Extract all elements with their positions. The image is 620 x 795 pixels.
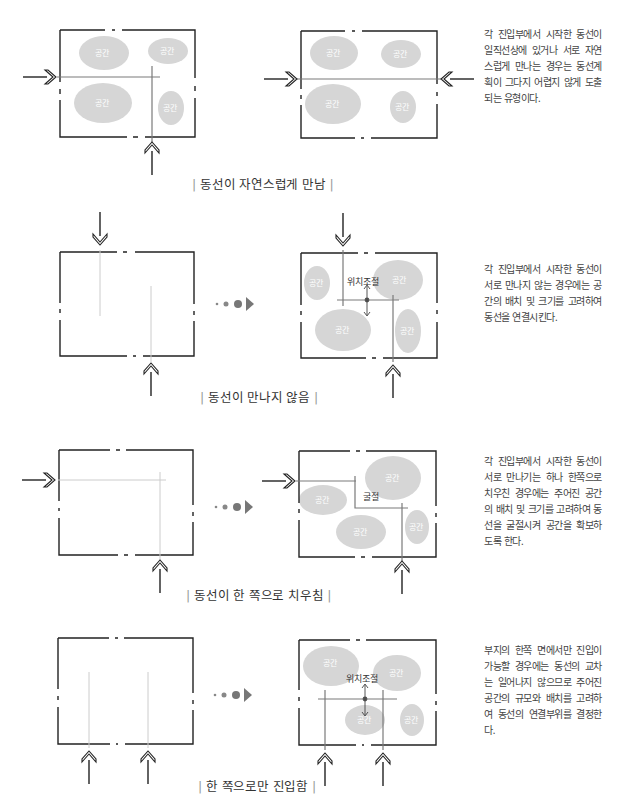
site-plan-after: 공간 공간 공간 공간 위치조절	[301, 213, 437, 398]
caption-divider: |	[192, 177, 196, 192]
entry-arrow-icon	[144, 363, 158, 396]
entry-arrow-icon	[93, 212, 107, 245]
description-natural-meet: 각 진입부에서 시작한 동선이 일직선상에 있거나 서로 자연스럽게 만나는 경…	[484, 27, 602, 107]
caption-natural-meet: |동선이 자연스럽게 만남|	[188, 174, 338, 193]
caption-text: 한 쪽으로만 진입함	[206, 779, 308, 794]
caption-biased: |동선이 한 쪽으로 치우침|	[182, 585, 335, 604]
svg-text:공간: 공간	[95, 48, 110, 58]
panel-natural-meet: 공간 공간 공간 공간 공간 공간 공간 공간	[23, 30, 474, 175]
panel-biased: 공간 공간 공간 공간 굴절	[22, 450, 436, 594]
svg-text:공간: 공간	[309, 278, 324, 288]
description-biased: 각 진입부에서 시작한 동선이 서로 만나기는 하나 한쪽으로 치우친 경우에는…	[484, 454, 602, 550]
svg-text:공간: 공간	[400, 326, 415, 336]
description-not-meeting: 각 진입부에서 시작한 동선이 서로 만나지 않는 경우에는 공간의 배치 및 …	[484, 262, 602, 326]
entry-arrow-icon	[386, 365, 400, 398]
svg-text:공간: 공간	[357, 715, 372, 725]
caption-text: 동선이 한 쪽으로 치우침	[194, 588, 323, 603]
caption-divider: |	[200, 390, 204, 405]
svg-text:공간: 공간	[325, 99, 340, 109]
transition-arrow-icon	[215, 500, 253, 514]
entry-arrow-icon	[153, 560, 167, 593]
caption-divider: |	[330, 177, 334, 192]
svg-text:공간: 공간	[392, 275, 407, 285]
svg-text:공간: 공간	[95, 98, 110, 108]
entry-arrow-icon	[336, 213, 350, 246]
caption-divider: |	[314, 390, 318, 405]
site-plan-after: 공간 공간 공간 공간	[264, 31, 474, 138]
svg-text:공간: 공간	[315, 495, 330, 505]
svg-text:공간: 공간	[385, 473, 400, 483]
svg-text:공간: 공간	[395, 102, 410, 112]
site-plan-before	[60, 212, 194, 396]
svg-text:공간: 공간	[160, 46, 175, 56]
transition-arrow-icon	[214, 688, 252, 702]
panel-not-meeting: 공간 공간 공간 공간 위치조절	[60, 212, 437, 398]
entry-arrow-icon	[22, 473, 55, 487]
entry-arrow-icon	[141, 751, 155, 784]
site-plan-after: 공간 공간 공간 공간 굴절	[262, 451, 436, 594]
caption-text: 동선이 자연스럽게 만남	[200, 177, 326, 192]
caption-text: 동선이 만나지 않음	[208, 390, 310, 405]
caption-divider: |	[186, 588, 190, 603]
annotation-position-adjust: 위치조절	[346, 673, 378, 684]
entry-arrow-icon	[82, 751, 96, 784]
site-plan-before	[22, 450, 193, 593]
entry-arrow-icon	[441, 72, 474, 86]
panel-single-side: 공간 공간 공간 공간 위치조절	[58, 638, 436, 786]
svg-text:공간: 공간	[404, 715, 419, 725]
caption-divider: |	[327, 588, 331, 603]
svg-text:공간: 공간	[409, 522, 424, 532]
svg-text:공간: 공간	[389, 668, 404, 678]
svg-text:공간: 공간	[323, 658, 338, 668]
site-plan-before	[58, 638, 193, 784]
entry-arrow-icon	[145, 142, 159, 175]
transition-arrow-icon	[216, 297, 254, 311]
annotation-position-adjust: 위치조절	[347, 276, 379, 287]
svg-text:공간: 공간	[163, 103, 178, 113]
svg-text:공간: 공간	[393, 49, 408, 59]
entry-arrow-icon	[376, 753, 390, 786]
annotation-bend: 굴절	[363, 491, 379, 502]
site-plan-before: 공간 공간 공간 공간	[23, 30, 195, 175]
description-single-side: 부지의 한쪽 면에서만 진입이 가능할 경우에는 동선의 교차는 일어나지 않으…	[484, 643, 602, 739]
site-plan-after: 공간 공간 공간 공간 위치조절	[299, 640, 436, 786]
entry-arrow-icon	[264, 72, 297, 86]
caption-not-meeting: |동선이 만나지 않음|	[196, 387, 322, 406]
caption-single-side: |한 쪽으로만 진입함|	[194, 776, 320, 795]
entry-arrow-icon	[318, 753, 332, 786]
svg-text:공간: 공간	[326, 48, 341, 58]
svg-text:공간: 공간	[335, 325, 350, 335]
entry-arrow-icon	[262, 474, 295, 488]
svg-text:공간: 공간	[353, 527, 368, 537]
entry-arrow-icon	[395, 561, 409, 594]
caption-divider: |	[198, 779, 202, 794]
entry-arrow-icon	[23, 70, 56, 84]
caption-divider: |	[312, 779, 316, 794]
